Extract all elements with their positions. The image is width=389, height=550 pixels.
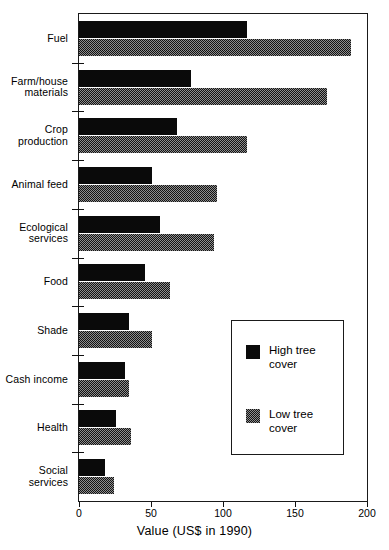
bar-high-tree-cover-shade — [79, 313, 129, 330]
x-axis-title: Value (US$ in 1990) — [0, 524, 389, 538]
bar-low-tree-cover-shade — [79, 331, 152, 348]
bar-high-tree-cover-ecological-services — [79, 216, 160, 233]
chart-legend: High tree cover Low tree cover — [231, 320, 344, 455]
bar-low-tree-cover-food — [79, 282, 170, 299]
x-axis-tick-label-150: 150 — [286, 506, 304, 520]
bar-low-tree-cover-fuel — [79, 39, 351, 56]
y-axis-label-cash-income: Cash income — [0, 355, 73, 404]
bar-high-tree-cover-health — [79, 410, 116, 427]
x-axis-tick-labels: 050100150200 — [78, 506, 368, 522]
x-axis-tick-label-50: 50 — [145, 506, 157, 520]
bar-low-tree-cover-ecological-services — [79, 234, 214, 251]
bar-row-animal-feed — [79, 160, 367, 209]
y-axis-label-crop-production: Crop production — [0, 111, 73, 160]
x-axis-tick-label-200: 200 — [358, 506, 376, 520]
bar-low-tree-cover-animal-feed — [79, 185, 217, 202]
legend-label-high-tree-cover: High tree cover — [269, 344, 316, 371]
legend-entry-high-tree-cover: High tree cover — [246, 344, 316, 371]
bar-row-food — [79, 258, 367, 307]
y-axis-label-social-services: Social services — [0, 452, 73, 501]
y-axis-label-food: Food — [0, 258, 73, 307]
bar-high-tree-cover-crop-production — [79, 118, 177, 135]
bar-chart: Fuel Farm/house materials Crop productio… — [0, 0, 389, 550]
bar-high-tree-cover-farm-house-materials — [79, 70, 191, 87]
bar-low-tree-cover-health — [79, 428, 131, 445]
y-axis-label-health: Health — [0, 404, 73, 453]
bar-row-social-services — [79, 452, 367, 501]
bar-low-tree-cover-crop-production — [79, 136, 247, 153]
bar-row-crop-production — [79, 111, 367, 160]
y-axis-label-fuel: Fuel — [0, 14, 73, 63]
legend-swatch-high-tree-cover — [246, 345, 260, 359]
y-axis-label-shade: Shade — [0, 306, 73, 355]
x-axis-tick-label-0: 0 — [76, 506, 82, 520]
bar-high-tree-cover-social-services — [79, 459, 105, 476]
bar-low-tree-cover-cash-income — [79, 380, 129, 397]
x-axis-tick-label-100: 100 — [214, 506, 232, 520]
y-axis-category-labels: Fuel Farm/house materials Crop productio… — [0, 14, 73, 501]
bar-high-tree-cover-fuel — [79, 21, 247, 38]
bar-row-ecological-services — [79, 209, 367, 258]
bar-high-tree-cover-cash-income — [79, 362, 125, 379]
legend-swatch-low-tree-cover — [246, 409, 260, 423]
y-axis-label-ecological-services: Ecological services — [0, 209, 73, 258]
bar-low-tree-cover-social-services — [79, 477, 114, 494]
legend-label-low-tree-cover: Low tree cover — [269, 408, 313, 435]
y-axis-label-farm-house-materials: Farm/house materials — [0, 63, 73, 112]
bar-high-tree-cover-animal-feed — [79, 167, 152, 184]
bar-row-farm-house-materials — [79, 63, 367, 112]
legend-entry-low-tree-cover: Low tree cover — [246, 408, 313, 435]
y-axis-label-animal-feed: Animal feed — [0, 160, 73, 209]
bar-low-tree-cover-farm-house-materials — [79, 88, 327, 105]
bar-row-fuel — [79, 14, 367, 63]
bar-high-tree-cover-food — [79, 264, 145, 281]
